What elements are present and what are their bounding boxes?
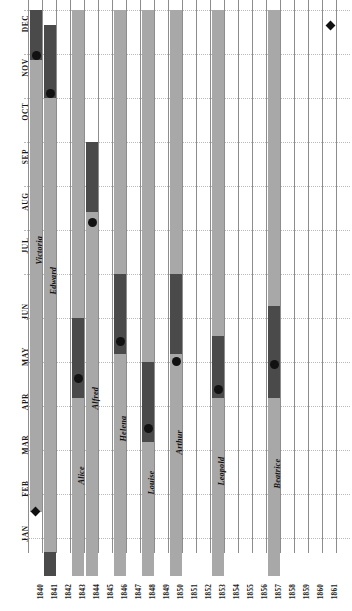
bar-label-alice: Alice [77, 466, 86, 484]
year-label-1852: 1852 [205, 584, 213, 611]
year-rule [126, 0, 127, 553]
bar-label-edward: Edward [49, 267, 58, 295]
bar-arthur-dark [170, 274, 182, 354]
year-label-1849: 1849 [163, 584, 171, 611]
year-label-1859: 1859 [303, 584, 311, 611]
year-rule [266, 0, 267, 553]
year-label-1860: 1860 [317, 584, 325, 611]
birth-marker-helena [116, 337, 125, 346]
birth-marker-leopold [214, 385, 223, 394]
year-label-1843: 1843 [79, 584, 87, 611]
bar-label-alfred: Alfred [91, 387, 100, 410]
bar-beatrice-dark [268, 306, 280, 398]
year-rule [308, 0, 309, 553]
year-label-1851: 1851 [191, 584, 199, 611]
year-label-1855: 1855 [247, 584, 255, 611]
year-rule [294, 0, 295, 553]
year-rule [28, 0, 29, 553]
birth-marker-alfred [88, 218, 97, 227]
bar-label-beatrice: Beatrice [273, 459, 282, 489]
birth-marker-arthur [172, 357, 181, 366]
birth-marker-alice [74, 374, 83, 383]
birth-marker-victoria [32, 51, 41, 60]
year-rule [182, 0, 183, 553]
bar-edward-dark [44, 25, 56, 98]
event-marker-death [326, 21, 336, 31]
year-label-1856: 1856 [261, 584, 269, 611]
year-label-1854: 1854 [233, 584, 241, 611]
bar-label-leopold: Leopold [217, 457, 226, 486]
bar-alice-light [72, 10, 84, 576]
year-rule [322, 0, 323, 553]
bar-alfred-dark [86, 142, 98, 212]
year-label-1861: 1861 [331, 584, 339, 611]
birth-marker-beatrice [270, 360, 279, 369]
year-rule [210, 0, 211, 553]
bar-leopold-light [212, 10, 224, 576]
year-label-1846: 1846 [121, 584, 129, 611]
year-label-1853: 1853 [219, 584, 227, 611]
year-label-1840: 1840 [37, 584, 45, 611]
year-rule [42, 0, 43, 553]
bar-label-louise: Louise [147, 471, 156, 495]
birth-marker-edward [46, 89, 55, 98]
year-rule [196, 0, 197, 553]
year-rule [168, 0, 169, 553]
bar-label-victoria: Victoria [35, 236, 44, 264]
bar-label-helena: Helena [119, 416, 128, 442]
bar-beatrice-light [268, 10, 280, 576]
year-label-1848: 1848 [149, 584, 157, 611]
year-rule [70, 0, 71, 553]
gantt-chart: DEC NOV OCT SEP AUG JUL JUN MAY APR MAR … [0, 0, 352, 611]
year-label-1841: 1841 [51, 584, 59, 611]
year-rule [140, 0, 141, 553]
year-rule [98, 0, 99, 553]
year-label-1842: 1842 [65, 584, 73, 611]
year-label-1857: 1857 [275, 584, 283, 611]
bar-alice-dark [72, 318, 84, 398]
year-rule [336, 0, 337, 553]
year-label-1858: 1858 [289, 584, 297, 611]
year-label-1850: 1850 [177, 584, 185, 611]
bar-label-arthur: Arthur [175, 430, 184, 454]
bar-edward-birth-block [44, 552, 56, 576]
year-label-1847: 1847 [135, 584, 143, 611]
year-label-1845: 1845 [107, 584, 115, 611]
year-rule [252, 0, 253, 553]
birth-marker-louise [144, 424, 153, 433]
year-label-1844: 1844 [93, 584, 101, 611]
year-rule [112, 0, 113, 553]
year-rule [238, 0, 239, 553]
